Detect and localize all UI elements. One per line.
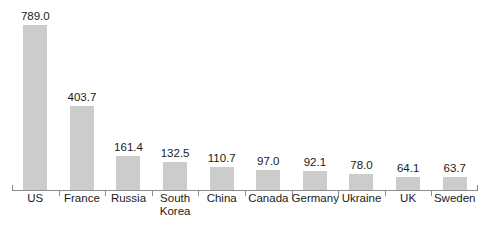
bar-value-label: 63.7 xyxy=(443,162,465,174)
bar-group: 161.4 xyxy=(105,0,152,190)
bar xyxy=(23,25,47,190)
x-axis-tick-mark xyxy=(292,191,293,196)
bar xyxy=(303,171,327,190)
bar xyxy=(396,177,420,190)
x-axis-tick-mark xyxy=(245,191,246,196)
bar-group: 403.7 xyxy=(59,0,106,190)
bar xyxy=(116,156,140,190)
bar-value-label: 110.7 xyxy=(208,152,236,164)
bar-group: 97.0 xyxy=(245,0,292,190)
bar-value-label: 97.0 xyxy=(257,155,279,167)
x-axis-tick-mark xyxy=(59,191,60,196)
x-axis-tick-label: Germany xyxy=(292,192,339,205)
bar xyxy=(349,174,373,190)
bar-group: 64.1 xyxy=(385,0,432,190)
bar-group: 789.0 xyxy=(12,0,59,190)
bar-value-label: 92.1 xyxy=(304,156,326,168)
x-axis-tick-label: France xyxy=(59,192,106,205)
x-axis-tick-mark xyxy=(431,191,432,196)
x-axis-tick-label: UK xyxy=(385,192,432,205)
bar-value-label: 78.0 xyxy=(350,159,372,171)
x-axis-tick-label: Canada xyxy=(245,192,292,205)
bar-chart: 789.0403.7161.4132.5110.797.092.178.064.… xyxy=(0,0,489,234)
bar xyxy=(163,162,187,190)
x-axis-tick-label: China xyxy=(198,192,245,205)
bar xyxy=(210,167,234,190)
x-axis-tick-mark xyxy=(105,191,106,196)
bar-value-label: 789.0 xyxy=(21,10,50,22)
x-axis-right-cap xyxy=(477,185,478,190)
plot-area: 789.0403.7161.4132.5110.797.092.178.064.… xyxy=(12,0,478,190)
bar-group: 63.7 xyxy=(431,0,478,190)
x-axis-tick-mark xyxy=(198,191,199,196)
bar-value-label: 161.4 xyxy=(114,141,143,153)
x-axis-tick-mark xyxy=(152,191,153,196)
x-axis-category-labels: USFranceRussiaSouth KoreaChinaCanadaGerm… xyxy=(12,192,478,234)
x-axis-tick-label: US xyxy=(12,192,59,205)
bar-group: 92.1 xyxy=(292,0,339,190)
bar xyxy=(70,106,94,190)
bar-value-label: 403.7 xyxy=(68,91,97,103)
bar xyxy=(443,177,467,190)
bar xyxy=(256,170,280,190)
x-axis-tick-label: Ukraine xyxy=(338,192,385,205)
bar-group: 132.5 xyxy=(152,0,199,190)
x-axis-tick-label: Sweden xyxy=(431,192,478,205)
x-axis-tick-label: Russia xyxy=(105,192,152,205)
x-axis-left-cap xyxy=(12,185,13,190)
x-axis-tick-mark xyxy=(385,191,386,196)
x-axis-tick-mark xyxy=(338,191,339,196)
bar-value-label: 132.5 xyxy=(161,147,190,159)
bar-group: 110.7 xyxy=(198,0,245,190)
bar-value-label: 64.1 xyxy=(397,162,419,174)
x-axis-tick-label: South Korea xyxy=(152,192,199,218)
bar-group: 78.0 xyxy=(338,0,385,190)
